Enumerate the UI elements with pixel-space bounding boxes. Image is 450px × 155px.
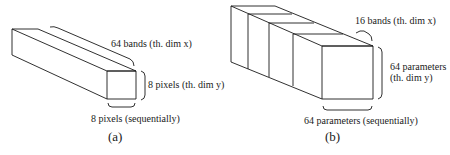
brace-height-b	[378, 47, 382, 99]
label-width-a: 8 pixels (sequentially)	[91, 113, 180, 124]
label-height-b-line2: (th. dim y)	[390, 72, 433, 83]
label-height-a: 8 pixels (th. dim y)	[148, 79, 224, 90]
label-depth-b: 16 bands (th. dim x)	[355, 15, 436, 26]
brace-height-a	[141, 71, 145, 100]
label-height-b-line1: 64 parameters	[390, 61, 446, 72]
brace-depth-b	[356, 31, 372, 41]
brace-width-b	[323, 106, 372, 110]
label-depth-a: 64 bands (th. dim x)	[111, 38, 192, 49]
label-width-b: 64 parameters (sequentially)	[304, 115, 418, 126]
caption-b: (b)	[325, 130, 340, 144]
brace-width-a	[108, 103, 135, 107]
box-b	[231, 6, 373, 99]
caption-a: (a)	[108, 130, 122, 144]
